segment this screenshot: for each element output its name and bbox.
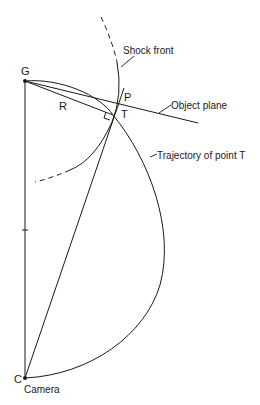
shock-front-leader — [121, 56, 134, 67]
point-g-dot — [23, 79, 27, 83]
label-r: R — [59, 101, 67, 112]
trajectory-leader — [150, 154, 157, 157]
label-c: C — [14, 374, 22, 385]
diagram-canvas — [0, 0, 260, 405]
label-camera: Camera — [24, 385, 60, 395]
label-t: T — [121, 109, 128, 120]
diagram-figure: G R P T Shock front Object plane Traject… — [0, 0, 260, 405]
object-plane-leader — [159, 105, 171, 113]
line-c-to-p — [25, 88, 124, 378]
shock-front-curve — [70, 62, 119, 170]
label-object-plane: Object plane — [171, 101, 227, 111]
trajectory-arc — [25, 81, 164, 378]
shock-front-dashed-upper — [101, 17, 117, 62]
label-p: P — [124, 92, 131, 103]
point-c-dot — [23, 376, 27, 380]
label-g: G — [21, 66, 30, 77]
label-trajectory: Trajectory of point T — [157, 151, 245, 161]
shock-front-dashed-lower — [35, 170, 70, 182]
label-shock-front: Shock front — [123, 46, 174, 56]
